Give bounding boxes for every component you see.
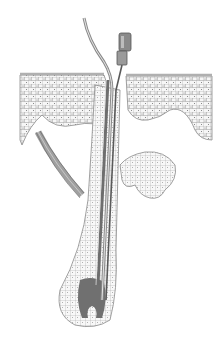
arrector-pili-muscle [36, 131, 84, 198]
hair-follicle-illustration [0, 0, 222, 342]
probe-collar [117, 51, 127, 65]
probe-handle [119, 33, 131, 51]
sebaceous-gland [120, 152, 176, 199]
